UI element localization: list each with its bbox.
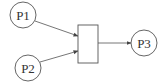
place-p3: P3	[131, 30, 157, 56]
place-p2: P2	[15, 55, 41, 81]
petri-net-diagram: P1 P2 P3	[0, 0, 167, 83]
arc-p1-to-transition	[35, 21, 78, 36]
arc-p2-to-transition	[40, 51, 78, 62]
place-p1: P1	[10, 2, 36, 28]
place-p2-label: P2	[21, 61, 35, 76]
place-p3-label: P3	[137, 36, 151, 51]
place-p1-label: P1	[16, 8, 30, 23]
transition-box	[78, 25, 98, 63]
